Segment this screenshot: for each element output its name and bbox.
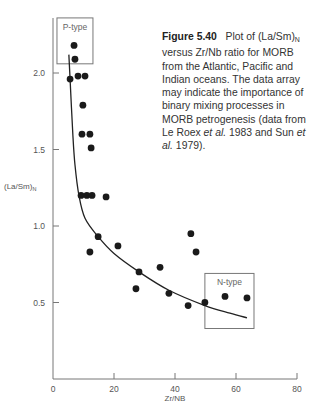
- data-point: [95, 233, 102, 240]
- x-tick-label: 20: [109, 384, 119, 394]
- x-axis-title: Zr/NB: [165, 394, 186, 403]
- x-tick-label: 0: [51, 384, 56, 394]
- data-point: [157, 264, 164, 271]
- data-point: [79, 131, 86, 138]
- caption-text-2: versus Zr/Nb ratio for MORB from the Atl…: [162, 47, 306, 138]
- caption-text-1: Plot of (La/Sm): [226, 31, 295, 42]
- data-point: [222, 293, 229, 300]
- figure-caption: Figure 5.40 Plot of (La/Sm)N versus Zr/N…: [162, 30, 314, 153]
- p-type-label: P-type: [63, 22, 88, 32]
- data-point: [75, 73, 82, 80]
- data-point: [79, 102, 86, 109]
- data-point: [103, 194, 110, 201]
- y-tick-label: 0.5: [33, 298, 45, 308]
- data-point: [193, 249, 200, 256]
- y-ticks: 0.51.01.52.0: [33, 68, 59, 308]
- data-point: [89, 192, 96, 199]
- data-point: [136, 269, 143, 276]
- x-tick-label: 60: [231, 384, 241, 394]
- data-point: [166, 290, 173, 297]
- y-tick-label: 2.0: [33, 68, 45, 78]
- caption-etal-1: et al.: [204, 127, 227, 138]
- data-point: [115, 242, 122, 249]
- x-tick-label: 80: [292, 384, 302, 394]
- data-point: [72, 56, 79, 63]
- x-ticks: 020406080: [51, 373, 302, 394]
- caption-text-3: 1983 and Sun: [226, 127, 297, 138]
- data-point: [185, 302, 192, 309]
- data-point: [67, 76, 74, 83]
- x-tick-label: 40: [170, 384, 180, 394]
- data-point: [88, 145, 95, 152]
- y-tick-label: 1.5: [33, 145, 45, 155]
- data-point: [87, 249, 94, 256]
- data-point: [133, 285, 140, 292]
- y-axis-title: (La/Sm)N: [4, 182, 36, 192]
- data-point: [87, 131, 94, 138]
- data-point: [201, 299, 208, 306]
- y-tick-label: 1.0: [33, 221, 45, 231]
- caption-subscript: N: [295, 36, 300, 43]
- data-point: [71, 42, 78, 49]
- figure-label: Figure 5.40: [162, 31, 217, 42]
- data-point: [78, 192, 85, 199]
- data-point: [187, 230, 194, 237]
- data-point: [82, 73, 89, 80]
- data-point: [244, 295, 251, 302]
- caption-text-4: 1979).: [173, 140, 205, 151]
- n-type-label: N-type: [217, 277, 242, 287]
